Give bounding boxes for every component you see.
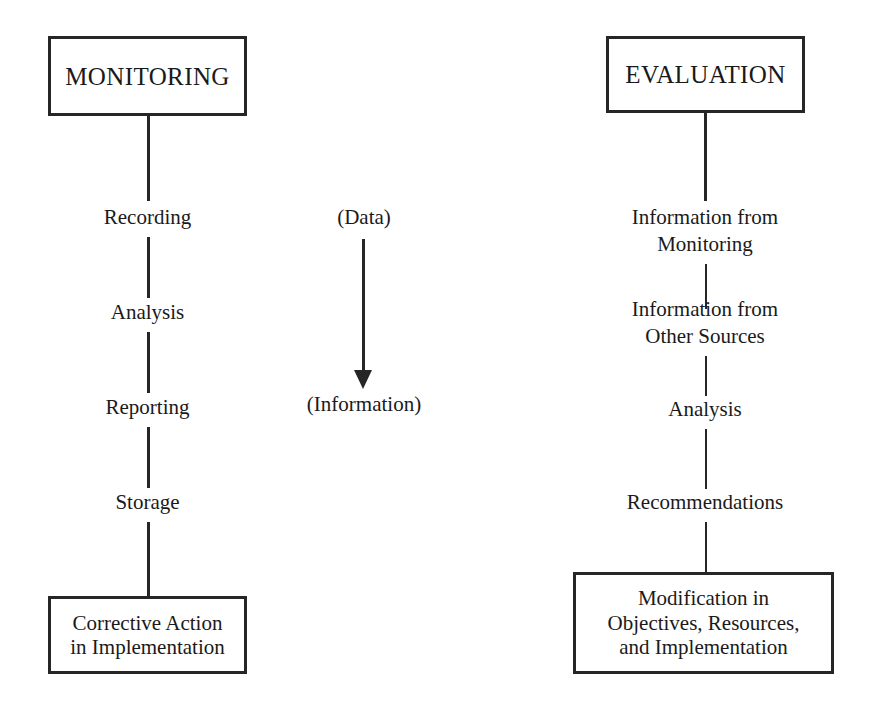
connector-info-other-sources-to-analysis: [705, 356, 707, 396]
step-right-analysis: Analysis: [580, 396, 830, 423]
node-corrective-action-label: Corrective Action in Implementation: [70, 611, 225, 660]
diagram-canvas: MONITORING Recording Analysis Reporting …: [0, 0, 870, 721]
connector-recommendations-to-modification: [705, 522, 707, 572]
node-corrective-action[interactable]: Corrective Action in Implementation: [48, 596, 247, 674]
step-left-storage: Storage: [48, 489, 247, 516]
node-evaluation-label: EVALUATION: [625, 60, 785, 89]
connector-analysis-to-recommendations: [705, 429, 707, 489]
center-target-label: (Information): [264, 392, 464, 417]
data-to-information-arrow-head: [354, 370, 372, 389]
node-evaluation[interactable]: EVALUATION: [606, 36, 805, 113]
connector-analysis-to-reporting: [147, 332, 150, 393]
node-modification-label: Modification in Objectives, Resources, a…: [608, 586, 800, 659]
connector-monitoring-to-recording: [147, 115, 150, 201]
step-left-reporting: Reporting: [48, 394, 247, 421]
data-to-information-arrow-shaft: [362, 239, 365, 372]
node-monitoring-label: MONITORING: [65, 62, 230, 91]
connector-evaluation-to-info-monitoring: [704, 113, 707, 201]
connector-storage-to-corrective-action: [147, 522, 150, 596]
node-monitoring[interactable]: MONITORING: [48, 36, 247, 116]
connector-recording-to-analysis: [147, 237, 150, 298]
step-left-recording: Recording: [48, 204, 247, 231]
connector-reporting-to-storage: [147, 427, 150, 488]
node-modification[interactable]: Modification in Objectives, Resources, a…: [573, 572, 834, 674]
step-right-information-from-other-sources: Information from Other Sources: [580, 296, 830, 351]
center-source-label: (Data): [264, 205, 464, 230]
step-right-recommendations: Recommendations: [580, 489, 830, 516]
step-left-analysis: Analysis: [48, 299, 247, 326]
step-right-information-from-monitoring: Information from Monitoring: [580, 204, 830, 259]
